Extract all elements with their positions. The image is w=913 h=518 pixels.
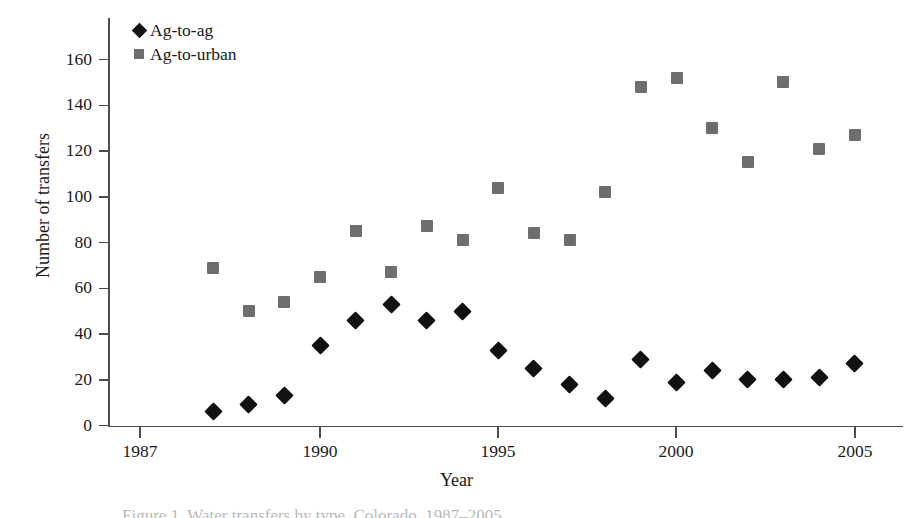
scatter-plot: 020406080100120140160 198719901995200020… [0, 0, 913, 518]
data-point-ag-to-urban-2003 [777, 76, 789, 88]
data-point-ag-to-urban-1994 [457, 234, 469, 246]
y-axis-title: Number of transfers [33, 86, 54, 326]
data-point-ag-to-urban-1987 [207, 262, 219, 274]
data-point-ag-to-ag-1990 [311, 336, 329, 354]
y-tick-label-160: 160 [44, 51, 92, 69]
chart-legend: Ag-to-ag Ag-to-urban [128, 18, 237, 66]
data-point-ag-to-ag-1991 [346, 311, 364, 329]
data-point-ag-to-ag-1993 [418, 311, 436, 329]
y-tick-0 [99, 425, 109, 427]
y-tick-120 [99, 150, 109, 152]
y-tick-140 [99, 105, 109, 107]
y-tick-160 [99, 59, 109, 61]
data-point-ag-to-ag-2002 [739, 371, 757, 389]
y-tick-80 [99, 242, 109, 244]
y-tick-60 [99, 288, 109, 290]
data-point-ag-to-ag-2005 [846, 355, 864, 373]
y-axis-line [108, 18, 110, 427]
x-axis-line [108, 426, 903, 428]
data-point-ag-to-ag-2001 [703, 361, 721, 379]
figure-caption: Figure 1. Water transfers by type, Color… [122, 506, 502, 518]
legend-item-ag-to-urban: Ag-to-urban [128, 42, 237, 66]
data-point-ag-to-urban-1988 [243, 305, 255, 317]
data-point-ag-to-ag-2003 [774, 371, 792, 389]
data-point-ag-to-ag-1992 [382, 295, 400, 313]
x-tick-1990 [319, 427, 321, 438]
x-tick-label-1995: 1995 [458, 443, 538, 461]
data-point-ag-to-urban-1989 [278, 296, 290, 308]
y-tick-label-0: 0 [44, 417, 92, 435]
data-point-ag-to-urban-1992 [385, 266, 397, 278]
y-tick-label-20: 20 [44, 371, 92, 389]
x-tick-label-2005: 2005 [815, 443, 895, 461]
data-point-ag-to-ag-1999 [632, 350, 650, 368]
data-point-ag-to-ag-2004 [810, 368, 828, 386]
data-point-ag-to-urban-1993 [421, 220, 433, 232]
data-point-ag-to-ag-1988 [239, 396, 257, 414]
data-point-ag-to-ag-1998 [596, 389, 614, 407]
data-point-ag-to-ag-1994 [453, 302, 471, 320]
data-point-ag-to-urban-1990 [314, 271, 326, 283]
y-tick-100 [99, 196, 109, 198]
x-tick-1987 [139, 427, 141, 438]
legend-label-ag-to-urban: Ag-to-urban [150, 42, 237, 66]
data-point-ag-to-urban-2000 [671, 72, 683, 84]
x-tick-2000 [675, 427, 677, 438]
data-point-ag-to-ag-1987 [204, 403, 222, 421]
legend-item-ag-to-ag: Ag-to-ag [128, 18, 237, 42]
data-point-ag-to-ag-1996 [525, 359, 543, 377]
data-point-ag-to-urban-2002 [742, 156, 754, 168]
x-tick-2005 [854, 427, 856, 438]
x-tick-1995 [497, 427, 499, 438]
data-point-ag-to-ag-2000 [667, 373, 685, 391]
data-point-ag-to-urban-1999 [635, 81, 647, 93]
data-point-ag-to-ag-1995 [489, 341, 507, 359]
y-tick-20 [99, 379, 109, 381]
figure-canvas: 020406080100120140160 198719901995200020… [0, 0, 913, 518]
x-tick-label-1987: 1987 [100, 443, 180, 461]
data-point-ag-to-urban-2005 [849, 129, 861, 141]
x-tick-label-1990: 1990 [280, 443, 360, 461]
y-tick-label-40: 40 [44, 325, 92, 343]
square-marker-icon [128, 49, 150, 59]
x-axis-title: Year [0, 470, 913, 491]
data-point-ag-to-urban-1998 [599, 186, 611, 198]
data-point-ag-to-urban-2004 [813, 143, 825, 155]
data-point-ag-to-ag-1997 [560, 375, 578, 393]
data-point-ag-to-urban-2001 [706, 122, 718, 134]
data-point-ag-to-urban-1997 [564, 234, 576, 246]
data-point-ag-to-urban-1991 [350, 225, 362, 237]
legend-label-ag-to-ag: Ag-to-ag [150, 18, 213, 42]
x-tick-label-2000: 2000 [636, 443, 716, 461]
data-point-ag-to-urban-1995 [492, 182, 504, 194]
data-point-ag-to-ag-1989 [275, 387, 293, 405]
diamond-marker-icon [128, 25, 150, 36]
y-tick-40 [99, 333, 109, 335]
data-point-ag-to-urban-1996 [528, 227, 540, 239]
